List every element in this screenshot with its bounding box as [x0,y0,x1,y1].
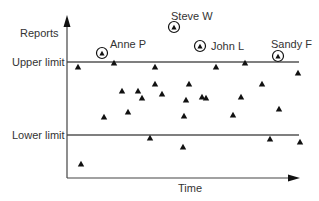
triangle-marker-icon [297,139,303,145]
annotation-anne-p: Anne P [110,38,146,50]
axes [64,15,301,182]
triangle-marker-icon [180,144,186,150]
annotation-steve-w: Steve W [171,10,213,22]
triangle-marker-icon [276,106,282,112]
triangle-marker-icon [139,95,145,101]
triangle-marker-icon [295,70,301,76]
triangle-marker-icon [152,81,158,87]
triangle-marker-icon [259,81,265,87]
lower-limit-label: Lower limit [12,129,65,141]
upper-limit-label: Upper limit [12,56,65,68]
triangle-marker-icon [242,60,248,66]
triangle-marker-icon [111,60,117,66]
annotation-sandy-f: Sandy F [271,38,312,50]
triangle-marker-icon [267,136,273,142]
highlighted-point [273,51,284,62]
triangle-marker-icon [125,109,131,115]
y-axis-arrow-icon [64,15,71,27]
triangle-marker-icon [78,161,84,167]
triangle-marker-icon [238,94,244,100]
triangle-marker-icon [119,88,125,94]
annotation-john-l: John L [211,40,244,52]
triangle-marker-icon [186,81,192,87]
triangle-marker-icon [75,64,81,70]
triangle-marker-icon [101,114,107,120]
triangle-marker-icon [152,64,158,70]
highlighted-point [195,41,206,52]
highlighted-point [97,48,108,59]
triangle-marker-icon [147,135,153,141]
triangle-marker-icon [183,97,189,103]
triangle-marker-icon [181,113,187,119]
x-axis-arrow-icon [288,175,300,182]
x-axis-label: Time [178,182,202,194]
triangle-marker-icon [213,64,219,70]
triangle-marker-icon [230,112,236,118]
highlighted-point [169,22,180,33]
y-axis-label: Reports [20,27,59,39]
reference-lines [67,62,299,135]
data-points [75,60,303,167]
triangle-marker-icon [159,91,165,97]
triangle-marker-icon [135,88,141,94]
